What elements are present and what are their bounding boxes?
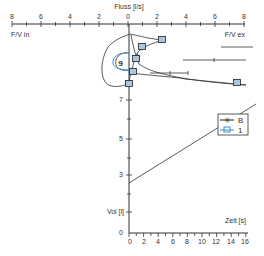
tick-label: 10 — [198, 238, 206, 245]
tick-label: 5 — [119, 135, 123, 142]
error-bars — [150, 47, 253, 75]
tick-label: 6 — [171, 238, 175, 245]
legend-label-b: B — [238, 116, 243, 125]
volume-axis: 9 7 5 3 0 Vol [l] — [107, 24, 132, 236]
fv-in-label: F/V in — [11, 31, 29, 38]
tick-label: 2 — [142, 238, 146, 245]
tick-label: 8 — [10, 13, 14, 20]
tick-label: 12 — [212, 238, 220, 245]
tick-label: 4 — [68, 13, 72, 20]
tick-label: 4 — [184, 13, 188, 20]
chart-canvas: Fluss [l/s] 8 6 4 2 0 2 4 6 8 F/V in F/V… — [0, 0, 264, 256]
nine-label: 9 — [118, 59, 123, 68]
tick-label: 16 — [241, 238, 249, 245]
fv-ex-label: F/V ex — [225, 31, 246, 38]
tick-label: 8 — [185, 238, 189, 245]
tick-label: 6 — [39, 13, 43, 20]
tick-label: 14 — [227, 238, 235, 245]
vol-axis-title: Vol [l] — [107, 208, 124, 216]
tick-label: 0 — [126, 13, 130, 20]
time-axis: 0 2 4 6 8 10 12 14 16 Zeit [s] — [128, 217, 249, 245]
tick-label: 7 — [119, 96, 123, 103]
tick-label: 2 — [155, 13, 159, 20]
asterisk-icon: ✳ — [224, 116, 231, 125]
tick-label: 0 — [128, 238, 132, 245]
tick-label: 2 — [97, 13, 101, 20]
tick-label: 4 — [156, 238, 160, 245]
legend-label-1: 1 — [238, 126, 243, 135]
tick-label: 8 — [242, 13, 246, 20]
legend: ✳ B 1 — [218, 114, 248, 135]
zeit-axis-title: Zeit [s] — [225, 217, 246, 225]
tick-label: 6 — [213, 13, 217, 20]
tick-label: 0 — [119, 229, 123, 236]
tick-label: 3 — [119, 171, 123, 178]
flow-axis: Fluss [l/s] 8 6 4 2 0 2 4 6 8 F/V in F/V… — [10, 3, 246, 38]
flow-axis-title: Fluss [l/s] — [114, 3, 144, 11]
